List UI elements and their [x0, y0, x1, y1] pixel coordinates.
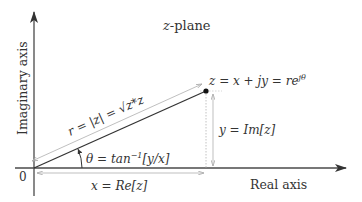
angle-arc [78, 149, 82, 168]
point-z-label: z = x + jy = rejθ [208, 73, 306, 88]
complex-plane-diagram: z-plane Imaginary axis Real axis 0 z = x… [0, 0, 362, 202]
horizontal-axis-label: Real axis [250, 177, 307, 192]
imag-part-label: y = Im[z] [218, 123, 276, 137]
magnitude-label: r = |z| = √z*z [66, 92, 147, 138]
real-part-label: x = Re[z] [91, 179, 148, 193]
origin-label: 0 [19, 170, 27, 184]
vertical-axis-label: Imaginary axis [15, 41, 30, 135]
angle-label: θ = tan−1[y/x] [86, 151, 170, 166]
point-z [203, 88, 208, 93]
magnitude-dimension-line [32, 84, 202, 161]
plane-title: z-plane [162, 18, 211, 33]
